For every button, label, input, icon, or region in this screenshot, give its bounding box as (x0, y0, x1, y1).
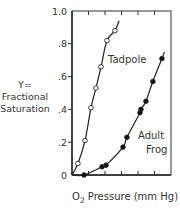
adult-label: Adult (138, 130, 164, 141)
x-axis-ticks (89, 11, 155, 175)
x-axis-label-rest: Pressure (mm Hg) (85, 191, 178, 202)
tadpole-curve (72, 21, 119, 175)
adult-frog-data-point (82, 173, 87, 178)
y-axis-ticks: 0.2.4.6.81.0 (52, 6, 72, 181)
x-axis-label-o: O (72, 191, 80, 202)
adult-frog-curve (72, 52, 164, 176)
adult-frog-data-point (160, 56, 165, 61)
tadpole-data-point (113, 28, 118, 33)
frog-label: Frog (146, 144, 167, 155)
x-axis-label: O2 Pressure (mm Hg) (72, 191, 178, 205)
tadpole-label: Tadpole (107, 54, 146, 65)
tadpole-data-point (99, 64, 104, 69)
adult-frog-data-point (151, 79, 156, 84)
y-tick-label: .6 (58, 71, 67, 82)
tadpole-data-point (76, 161, 81, 166)
adult-frog-data-point (121, 145, 126, 150)
adult-frog-data-point (104, 163, 109, 168)
y-tick-label: 0 (61, 170, 67, 181)
tadpole-data-point (94, 86, 99, 91)
y-axis-label-line1: Y= (17, 79, 32, 90)
y-tick-label: .8 (58, 38, 67, 49)
adult-frog-data-point (144, 99, 149, 104)
y-tick-label: .4 (58, 104, 67, 115)
adult-frog-data-point (125, 135, 130, 140)
y-axis-label-line2: Fractional (2, 91, 48, 102)
y-tick-label: .2 (58, 137, 67, 148)
tadpole-data-point (105, 38, 110, 43)
y-axis-label-line3: Saturation (0, 103, 50, 114)
tadpole-data-point (89, 105, 94, 110)
adult-frog-data-point (139, 107, 144, 112)
y-tick-label: 1.0 (52, 6, 67, 17)
tadpole-data-point (83, 138, 88, 143)
oxygen-saturation-chart: 0.2.4.6.81.0 Tadpole Adult Frog Y= Fract… (0, 0, 180, 212)
